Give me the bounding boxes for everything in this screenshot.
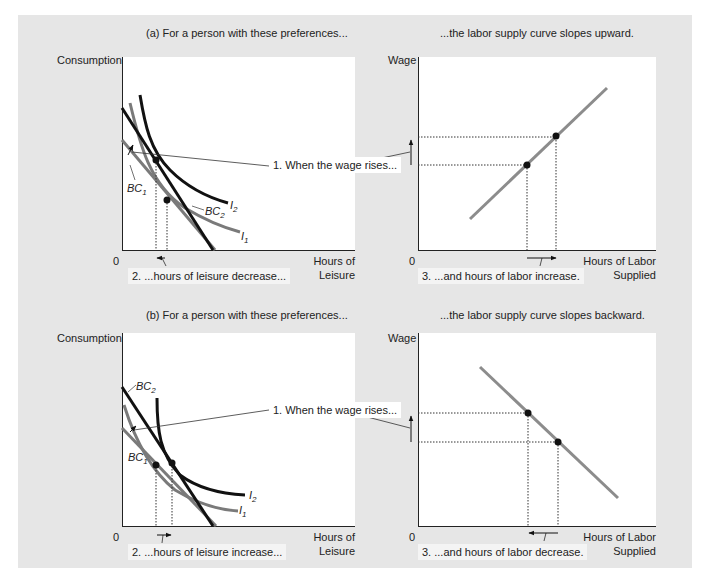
equilibrium-point-old <box>164 197 171 204</box>
panel-a-callout-wage-rises: 1. When the wage rises... <box>269 157 401 173</box>
panel-a-callout-labor-increase: 3. ...and hours of labor increase. <box>418 268 584 284</box>
panel-b-callout-leisure-increase: 2. ...hours of leisure increase... <box>128 544 286 560</box>
panel-b-callout-wage-rises: 1. When the wage rises... <box>269 402 401 418</box>
panel-a-callout-leisure-decrease: 2. ...hours of leisure decrease... <box>128 268 290 284</box>
equilibrium-point-new <box>153 157 160 164</box>
panel-a-right-chart <box>411 57 656 266</box>
panel-b-callout-labor-decrease: 3. ...and hours of labor decrease. <box>418 544 587 560</box>
diagram-graphics: BC1 BC2 I2 I1 <box>0 0 710 584</box>
panel-b-right-chart <box>411 333 656 541</box>
panel-b-left-chart: BC2 BC1 I2 I1 <box>122 333 355 543</box>
